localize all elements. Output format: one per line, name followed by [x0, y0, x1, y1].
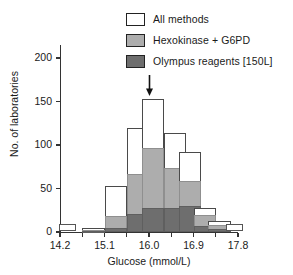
- histogram-bar: [105, 0, 127, 232]
- x-tick-label-15.1: 15.1: [85, 239, 125, 251]
- x-tick: [215, 233, 216, 237]
- x-tick: [126, 233, 127, 237]
- x-tick-label-16.0: 16.0: [129, 239, 169, 251]
- histogram-bar: [142, 0, 164, 232]
- x-axis-title: Glucose (mmol/L): [60, 255, 238, 267]
- y-tick-label-100: 100: [12, 138, 52, 150]
- bar-segment-olympus: [142, 208, 164, 232]
- high-outlier-marker: [226, 224, 243, 231]
- histogram-bar: [208, 0, 230, 232]
- x-tick: [104, 233, 105, 237]
- x-tick-label-17.8: 17.8: [218, 239, 258, 251]
- low-outlier-marker: [59, 224, 76, 231]
- x-tick: [171, 233, 172, 237]
- y-tick-50: [56, 188, 60, 189]
- x-tick: [193, 233, 194, 237]
- y-tick-label-0: 0: [12, 225, 52, 237]
- histogram-figure: All methods Hexokinase + G6PD Olympus re…: [0, 0, 293, 275]
- bar-segment-olympus: [105, 228, 127, 232]
- y-tick-label-50: 50: [12, 182, 52, 194]
- x-tick: [237, 233, 238, 237]
- x-tick: [59, 233, 60, 237]
- x-tick-label-14.2: 14.2: [40, 239, 80, 251]
- histogram-bar: [82, 0, 104, 232]
- y-tick-label-200: 200: [12, 51, 52, 63]
- y-tick-200: [56, 57, 60, 58]
- x-tick: [82, 233, 83, 237]
- x-tick-label-16.9: 16.9: [174, 239, 214, 251]
- y-tick-label-150: 150: [12, 95, 52, 107]
- x-tick: [148, 233, 149, 237]
- bar-segment-olympus: [82, 231, 104, 233]
- y-tick-150: [56, 101, 60, 102]
- y-tick-100: [56, 144, 60, 145]
